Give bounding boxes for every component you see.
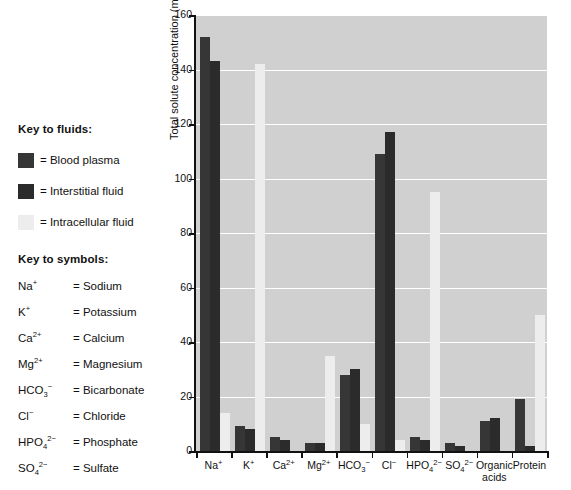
symbol-formula: HCO3− xyxy=(18,382,52,398)
symbol-formula: HPO42− xyxy=(18,434,56,450)
legend-label-plasma: = Blood plasma xyxy=(40,152,120,168)
bar-Na-interstitial-fluid xyxy=(210,61,220,451)
symbol-meaning: = Chloride xyxy=(73,408,126,424)
key-panel: Key to fluids: = Blood plasma= Interstit… xyxy=(0,0,170,490)
bar-HPO42-blood-plasma xyxy=(410,437,420,451)
x-tick-mark-3 xyxy=(301,453,303,458)
y-tick-mark-160 xyxy=(189,15,195,17)
symbol-meaning: = Potassium xyxy=(73,304,137,320)
y-tick-mark-20 xyxy=(189,397,195,399)
symbol-meaning: = Sodium xyxy=(73,278,122,294)
gridline-120 xyxy=(196,124,547,125)
symbol-formula: Cl− xyxy=(18,408,33,424)
legend-label-interstitial: = Interstitial fluid xyxy=(40,183,123,199)
symbol-formula: Ca2+ xyxy=(18,330,41,346)
bar-HPO42-intracellular-fluid xyxy=(430,192,440,451)
key-to-fluids-title: Key to fluids: xyxy=(18,123,92,135)
bar-Protein-interstitial-fluid xyxy=(525,446,535,451)
gridline-60 xyxy=(196,288,547,289)
symbol-meaning: = Sulfate xyxy=(73,460,119,476)
x-tick-mark-5 xyxy=(372,453,374,458)
x-tick-mark-2 xyxy=(266,453,268,458)
gridline-40 xyxy=(196,342,547,343)
bar-K-interstitial-fluid xyxy=(245,429,255,451)
y-tick-mark-80 xyxy=(189,233,195,235)
bar-Na-intracellular-fluid xyxy=(220,413,230,451)
y-tick-label-160: 160 xyxy=(152,8,192,20)
y-tick-label-0: 0 xyxy=(152,444,192,456)
bar-Organicacids-interstitial-fluid xyxy=(490,418,500,451)
y-tick-label-140: 140 xyxy=(152,63,192,75)
symbol-formula: Mg2+ xyxy=(18,356,43,372)
x-tick-mark-6 xyxy=(407,453,409,458)
y-tick-label-120: 120 xyxy=(152,117,192,129)
x-tick-mark-end xyxy=(547,453,549,458)
x-tick-mark-7 xyxy=(442,453,444,458)
y-tick-label-80: 80 xyxy=(152,226,192,238)
bar-Cl-blood-plasma xyxy=(375,154,385,451)
bar-HPO42-interstitial-fluid xyxy=(420,440,430,451)
bar-Cl-interstitial-fluid xyxy=(385,132,395,451)
legend-swatch-interstitial xyxy=(18,184,34,199)
x-tick-mark-8 xyxy=(477,453,479,458)
y-tick-mark-40 xyxy=(189,342,195,344)
key-to-symbols-title: Key to symbols: xyxy=(18,253,108,265)
x-tick-mark-4 xyxy=(336,453,338,458)
bar-Cl-intracellular-fluid xyxy=(395,440,405,451)
x-category-label-Protein: Protein xyxy=(504,459,555,471)
bar-HCO3-interstitial-fluid xyxy=(350,369,360,451)
symbol-meaning: = Bicarbonate xyxy=(73,382,144,398)
y-tick-mark-60 xyxy=(189,288,195,290)
symbol-formula: Na+ xyxy=(18,278,37,294)
bar-Ca2-interstitial-fluid xyxy=(280,440,290,451)
bar-SO42-interstitial-fluid xyxy=(455,446,465,451)
legend-swatch-intracellular xyxy=(18,215,34,230)
legend-label-intracellular: = Intracellular fluid xyxy=(40,214,134,230)
gridline-80 xyxy=(196,233,547,234)
bar-Na-blood-plasma xyxy=(200,37,210,451)
x-tick-mark-0 xyxy=(196,453,198,458)
y-tick-mark-120 xyxy=(189,124,195,126)
bar-HCO3-intracellular-fluid xyxy=(360,424,370,451)
y-tick-mark-140 xyxy=(189,70,195,72)
symbol-formula: SO42− xyxy=(18,460,48,476)
y-tick-mark-0 xyxy=(189,451,195,453)
y-tick-label-100: 100 xyxy=(152,172,192,184)
plot-area xyxy=(196,15,547,451)
legend-swatch-plasma xyxy=(18,153,34,168)
gridline-160 xyxy=(196,15,547,16)
gridline-20 xyxy=(196,397,547,398)
bar-K-blood-plasma xyxy=(235,426,245,451)
bar-Protein-intracellular-fluid xyxy=(535,315,545,451)
bar-Ca2-blood-plasma xyxy=(270,437,280,451)
symbol-meaning: = Magnesium xyxy=(73,356,142,372)
bar-HCO3-blood-plasma xyxy=(340,375,350,451)
bar-K-intracellular-fluid xyxy=(255,64,265,451)
bar-Protein-blood-plasma xyxy=(515,399,525,451)
bar-Mg2-intracellular-fluid xyxy=(325,356,335,451)
symbol-meaning: = Calcium xyxy=(73,330,124,346)
bar-Mg2-blood-plasma xyxy=(305,443,315,451)
x-tick-mark-9 xyxy=(512,453,514,458)
bar-SO42-blood-plasma xyxy=(445,443,455,451)
bar-Organicacids-blood-plasma xyxy=(480,421,490,451)
symbol-formula: K+ xyxy=(18,304,30,320)
y-tick-label-40: 40 xyxy=(152,335,192,347)
x-tick-mark-1 xyxy=(231,453,233,458)
bar-chart: Total solute concentration (mEq/L) 02040… xyxy=(170,0,571,490)
y-tick-label-20: 20 xyxy=(152,390,192,402)
bar-Mg2-interstitial-fluid xyxy=(315,443,325,451)
y-tick-label-60: 60 xyxy=(152,281,192,293)
gridline-140 xyxy=(196,70,547,71)
gridline-100 xyxy=(196,179,547,180)
y-tick-mark-100 xyxy=(189,179,195,181)
symbol-meaning: = Phosphate xyxy=(73,434,138,450)
